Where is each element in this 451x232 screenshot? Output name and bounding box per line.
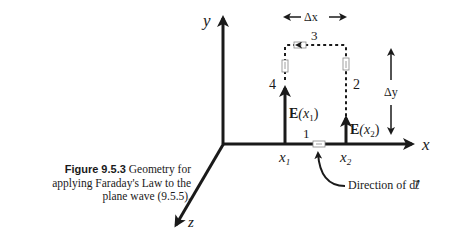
delta-x-indicator: Δx <box>285 10 345 24</box>
y-axis-label: y <box>201 11 211 30</box>
x-axis-label: x <box>421 135 430 154</box>
direction-pointer: Direction of dℓ⃗ <box>318 153 420 192</box>
delta-y-label: Δy <box>384 85 398 99</box>
integration-loop <box>282 42 349 147</box>
e2-label-E: E <box>350 122 359 137</box>
x1-position-label: x1 <box>278 149 290 167</box>
direction-of-dl-label: Direction of dℓ⃗ <box>348 178 420 192</box>
e1-label-E: E <box>289 106 298 121</box>
e2-label-close: ) <box>375 122 380 138</box>
figure-caption: Figure 9.5.3 Geometry for applying Farad… <box>1 163 191 204</box>
segment-label-4: 4 <box>269 77 276 92</box>
caption-line-1: Geometry for <box>129 163 191 175</box>
delta-y-indicator: Δy <box>384 50 398 133</box>
x-axis: x <box>222 135 430 154</box>
caption-line-3: plane wave (9.5.5). <box>1 190 191 204</box>
svg-text:E(x2): E(x2) <box>350 122 380 139</box>
caption-line-2: applying Faraday's Law to the <box>1 177 191 191</box>
e-field-vector-x2: E(x2) <box>346 118 380 144</box>
z-axis-label: z <box>187 214 194 230</box>
svg-text:E(x1): E(x1) <box>289 106 319 123</box>
x2-position-label: x2 <box>339 149 352 167</box>
segment-label-3: 3 <box>311 28 318 43</box>
delta-x-label: Δx <box>304 10 318 24</box>
segment-label-1: 1 <box>303 126 310 141</box>
figure-number: Figure 9.5.3 <box>65 163 126 175</box>
y-axis: y <box>201 11 223 144</box>
e-field-vector-x1: E(x1) <box>285 88 319 144</box>
segment-label-2: 2 <box>353 77 360 92</box>
e1-label-close: ) <box>314 106 319 122</box>
